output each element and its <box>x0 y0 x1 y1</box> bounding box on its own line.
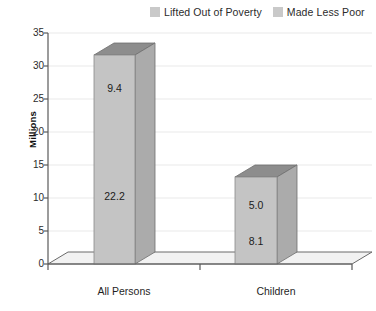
x-axis <box>48 264 352 270</box>
bar-all-persons[interactable] <box>94 43 155 264</box>
bar-value-label: 9.4 <box>94 82 135 94</box>
y-tick-label: 20 <box>18 126 44 137</box>
x-tick-label-children: Children <box>226 285 326 297</box>
chart-plot <box>0 0 376 311</box>
y-tick-label: 30 <box>18 60 44 71</box>
bar-value-label: 8.1 <box>235 235 277 247</box>
y-tick-label: 35 <box>18 27 44 38</box>
x-tick-label-all-persons: All Persons <box>74 285 174 297</box>
chart-container: Lifted Out of Poverty Made Less Poor <box>0 0 376 311</box>
y-tick-label: 0 <box>18 258 44 269</box>
bar-value-label: 22.2 <box>94 190 135 202</box>
y-tick-label: 10 <box>18 192 44 203</box>
y-tick-label: 25 <box>18 93 44 104</box>
bar-value-label: 5.0 <box>235 199 277 211</box>
y-tick-label: 5 <box>18 225 44 236</box>
y-tick-label: 15 <box>18 159 44 170</box>
bar-children[interactable] <box>235 165 297 264</box>
y-axis <box>44 33 48 264</box>
